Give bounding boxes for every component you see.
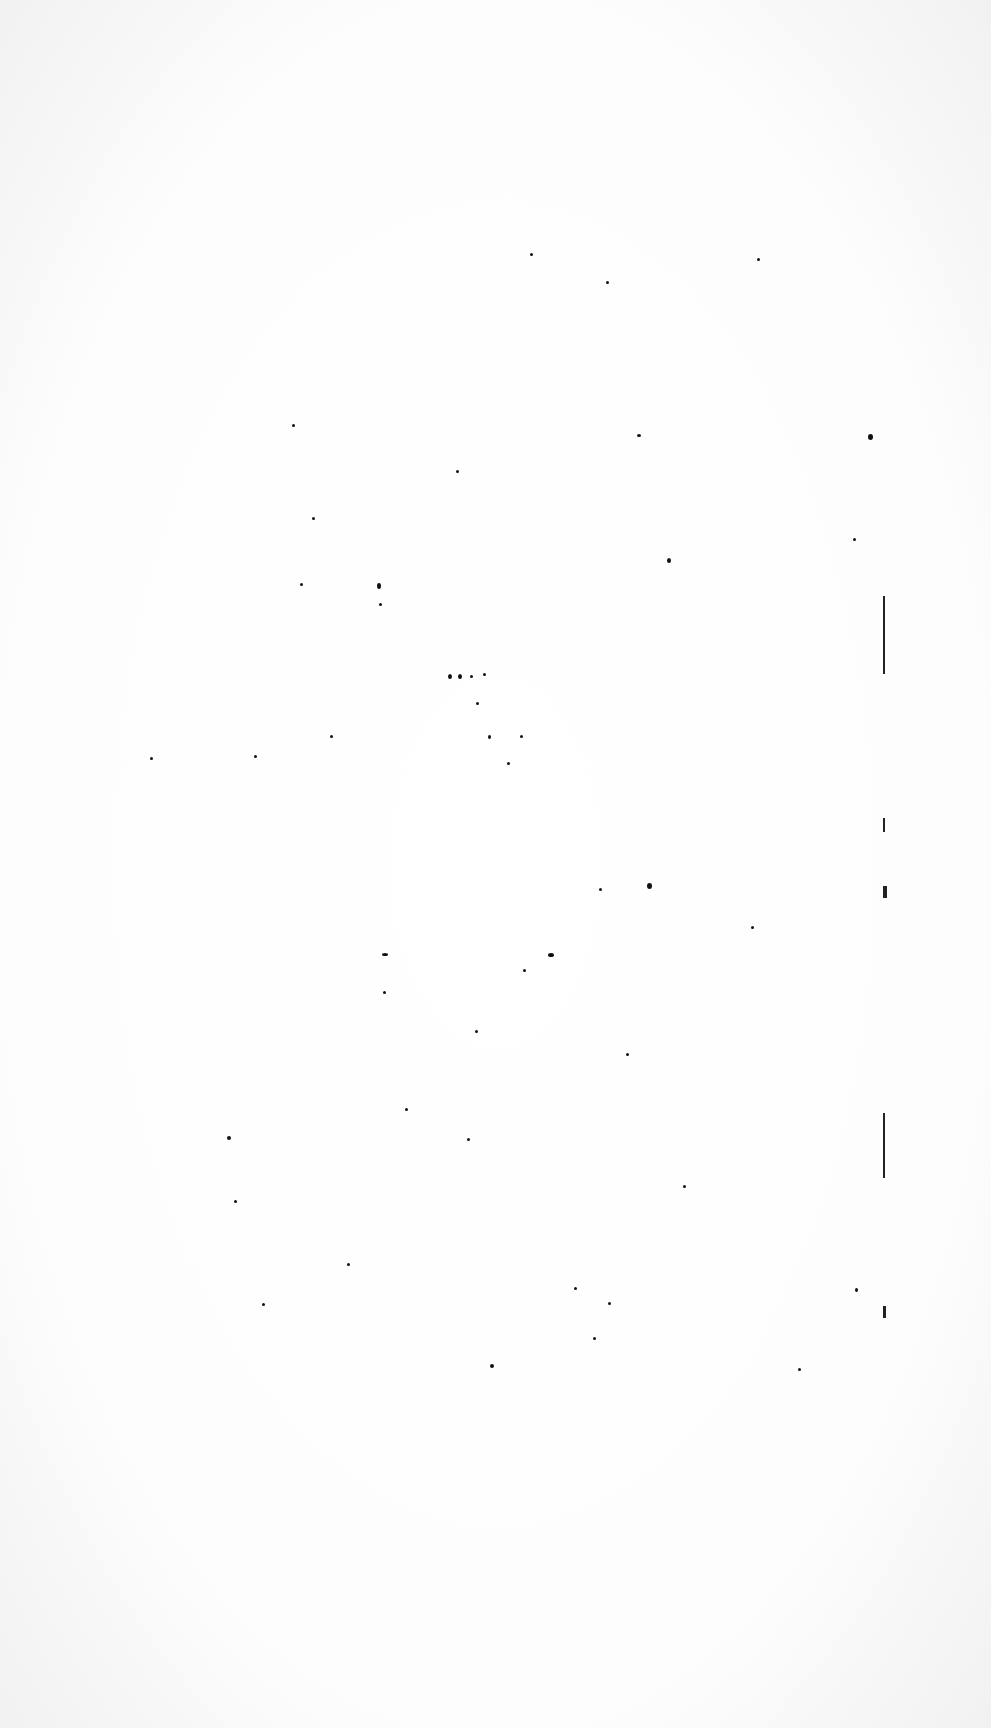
scan-speck — [458, 674, 462, 679]
scan-speck — [312, 517, 315, 520]
scan-speck — [626, 1053, 629, 1056]
margin-rule — [883, 1113, 885, 1178]
scan-speck — [751, 926, 754, 929]
scan-speck — [599, 888, 602, 891]
scan-speck — [475, 1030, 478, 1033]
scan-speck — [490, 1364, 494, 1368]
scan-speck — [448, 674, 452, 679]
scan-speck — [548, 953, 554, 957]
scan-speck — [683, 1185, 686, 1188]
margin-rule — [883, 886, 887, 898]
scan-speck — [488, 735, 491, 739]
scan-speck — [379, 603, 382, 606]
scan-speck — [507, 762, 510, 765]
scan-speck — [382, 953, 388, 956]
scan-speck — [377, 583, 381, 589]
scan-speck — [520, 735, 523, 738]
scan-speck — [798, 1368, 801, 1371]
scan-speck — [637, 434, 641, 437]
margin-rule — [883, 1306, 886, 1318]
scan-speck — [757, 258, 760, 261]
scan-speck — [647, 883, 652, 889]
scan-speck — [523, 969, 526, 972]
margin-rule — [883, 818, 885, 832]
scan-speck — [254, 755, 257, 758]
scan-speck — [853, 538, 856, 541]
scan-speck — [470, 675, 473, 678]
scan-speck — [667, 558, 671, 563]
scan-speck — [574, 1287, 577, 1290]
scan-speck — [593, 1337, 596, 1340]
scan-speck — [467, 1138, 470, 1141]
scan-speck — [608, 1302, 611, 1305]
scan-speck — [330, 735, 333, 738]
scan-speck — [227, 1136, 231, 1140]
scan-speck — [292, 424, 295, 427]
scan-speck — [383, 991, 386, 994]
scan-speck — [476, 702, 479, 705]
scan-speck — [456, 470, 459, 473]
scanned-page: Blank scanned page — [0, 0, 991, 1728]
scan-speck — [347, 1263, 350, 1266]
scan-speck — [405, 1108, 408, 1111]
scan-speck — [606, 281, 609, 284]
scan-speck — [868, 434, 873, 440]
scan-speck — [234, 1200, 237, 1203]
scan-speck — [150, 757, 153, 760]
scan-speck — [300, 583, 303, 586]
scan-speck — [483, 673, 486, 676]
margin-rule — [883, 596, 885, 674]
scan-speck — [855, 1288, 858, 1292]
scan-speck — [530, 253, 533, 256]
scan-speck — [262, 1303, 265, 1306]
